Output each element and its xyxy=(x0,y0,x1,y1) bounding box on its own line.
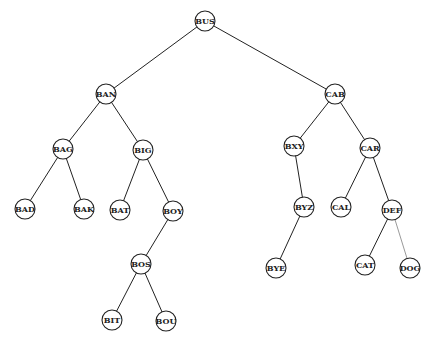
tree-node-ban: BAN xyxy=(96,84,116,104)
node-label: BYZ xyxy=(295,202,313,212)
edge-bag-bad xyxy=(25,149,63,209)
node-label: DOG xyxy=(400,263,421,273)
tree-node-bad: BAD xyxy=(15,199,35,219)
node-label: CAR xyxy=(360,143,380,153)
tree-node-bou: BOU xyxy=(156,311,177,331)
tree-node-bos: BOS xyxy=(131,254,151,274)
tree-node-bit: BIT xyxy=(102,310,122,330)
tree-node-cal: CAL xyxy=(331,197,351,217)
node-label: BUS xyxy=(195,16,215,26)
nodes-layer: BUSBANCABBAGBIGBXYCARBADBAKBATBOYBYZCALD… xyxy=(15,11,421,331)
tree-node-car: CAR xyxy=(360,138,380,158)
edge-bus-cab xyxy=(205,21,335,94)
tree-node-bxy: BXY xyxy=(284,136,304,156)
node-label: BAG xyxy=(53,144,73,154)
tree-diagram: BUSBANCABBAGBIGBXYCARBADBAKBATBOYBYZCALD… xyxy=(0,0,433,344)
tree-node-big: BIG xyxy=(133,140,153,160)
tree-node-bye: BYE xyxy=(266,258,286,278)
node-label: DEF xyxy=(383,205,402,215)
node-label: BIT xyxy=(104,315,121,325)
node-label: BXY xyxy=(285,141,304,151)
node-label: BIG xyxy=(134,145,152,155)
tree-node-byz: BYZ xyxy=(294,197,314,217)
tree-node-bag: BAG xyxy=(53,139,73,159)
tree-node-cat: CAT xyxy=(355,255,375,275)
tree-node-bus: BUS xyxy=(195,11,215,31)
tree-node-bak: BAK xyxy=(74,199,95,219)
node-label: BAD xyxy=(15,204,35,214)
node-label: CAL xyxy=(332,202,351,212)
node-label: BAN xyxy=(96,89,116,99)
node-label: BAT xyxy=(111,205,130,215)
tree-node-def: DEF xyxy=(382,200,402,220)
node-label: BYE xyxy=(267,263,285,273)
node-label: BOS xyxy=(131,259,151,269)
node-label: BOY xyxy=(163,206,183,216)
tree-node-cab: CAB xyxy=(325,84,345,104)
tree-node-dog: DOG xyxy=(400,258,421,278)
tree-node-bat: BAT xyxy=(110,200,130,220)
node-label: CAT xyxy=(356,260,374,270)
node-label: BAK xyxy=(74,204,95,214)
edge-bus-ban xyxy=(106,21,205,94)
node-label: BOU xyxy=(156,316,177,326)
tree-node-boy: BOY xyxy=(163,201,183,221)
edges-layer xyxy=(25,21,410,321)
node-label: CAB xyxy=(325,89,345,99)
